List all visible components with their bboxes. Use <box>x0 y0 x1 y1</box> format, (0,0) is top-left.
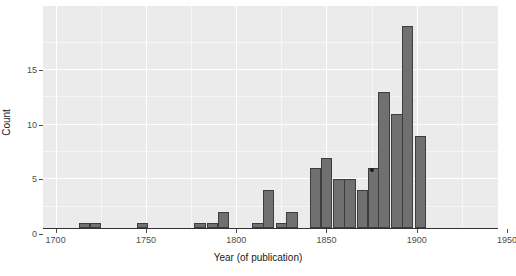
y-tick-label: 15 <box>0 65 37 75</box>
histogram-bar <box>357 190 369 228</box>
x-tick <box>507 229 508 233</box>
x-tick-label: 1950 <box>497 235 516 245</box>
y-tick <box>39 234 43 235</box>
histogram-bar <box>321 158 333 229</box>
x-tick <box>236 229 237 233</box>
histogram-bar <box>415 136 427 228</box>
x-tick-label: 1750 <box>136 235 156 245</box>
x-tick-label: 1700 <box>46 235 66 245</box>
histogram-chart: 170017501800185019001950 051015 Year (of… <box>0 0 516 276</box>
histogram-bar <box>378 92 390 228</box>
y-tick-label: 0 <box>0 229 37 239</box>
histogram-bar <box>218 212 230 228</box>
histogram-bar <box>263 190 275 228</box>
plot-panel <box>43 6 498 228</box>
bars-group <box>43 6 498 228</box>
y-tick-label: 5 <box>0 174 37 184</box>
y-tick <box>39 179 43 180</box>
histogram-bar <box>391 114 403 228</box>
x-tick <box>417 229 418 233</box>
x-tick-label: 1800 <box>226 235 246 245</box>
histogram-bar <box>368 168 380 228</box>
histogram-bar <box>402 26 414 228</box>
x-tick <box>146 229 147 233</box>
x-axis-line <box>43 228 498 229</box>
y-axis-label: Count <box>1 93 12 153</box>
y-tick <box>39 125 43 126</box>
histogram-bar <box>286 212 298 228</box>
x-tick <box>56 229 57 233</box>
x-tick <box>326 229 327 233</box>
gridline-horizontal-major <box>43 233 498 234</box>
x-axis-label: Year (of publication) <box>0 252 516 263</box>
histogram-bar <box>310 168 322 228</box>
x-tick-label: 1850 <box>316 235 336 245</box>
y-tick <box>39 70 43 71</box>
histogram-bar <box>344 179 356 228</box>
x-tick-label: 1900 <box>407 235 427 245</box>
histogram-bar <box>333 179 345 228</box>
